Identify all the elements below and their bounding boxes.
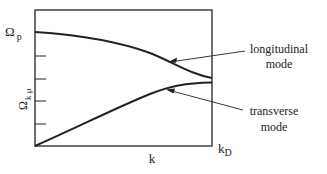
plot-frame [35, 10, 212, 146]
y-axis-label: Ωk μ [16, 88, 33, 110]
x-axis-label: k [149, 151, 156, 166]
longitudinal-mode-curve [35, 32, 212, 78]
arrowhead-icon [168, 58, 177, 63]
longitudinal-mode-label: longitudinal [250, 42, 309, 56]
arrowhead-icon [166, 89, 175, 94]
k-d-label: kD [218, 141, 232, 158]
transverse-mode-label: transverse [250, 104, 299, 118]
omega-p-label: Ωp [5, 24, 22, 42]
transverse-arrow [166, 89, 243, 110]
longitudinal-arrow [168, 51, 245, 63]
transverse-mode-label-line2: mode [261, 120, 288, 134]
dispersion-diagram: Ωp Ωk μ k kD longitudinal mode transvers… [0, 0, 327, 174]
y-axis-ticks [35, 56, 46, 124]
transverse-mode-curve [35, 83, 212, 147]
longitudinal-mode-label-line2: mode [266, 57, 293, 71]
